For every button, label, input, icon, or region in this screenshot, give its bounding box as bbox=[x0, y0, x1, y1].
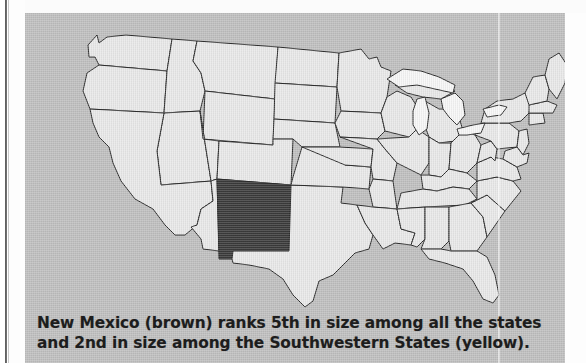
state-florida bbox=[421, 249, 499, 303]
state-vermont-new-hampshire bbox=[525, 75, 549, 105]
us-map bbox=[25, 13, 565, 313]
state-new-mexico-highlighted bbox=[217, 179, 291, 259]
state-wyoming bbox=[203, 91, 275, 145]
right-paper-margin bbox=[565, 0, 586, 363]
caption-line-1: New Mexico (brown) ranks 5th in size amo… bbox=[37, 313, 565, 333]
state-minnesota bbox=[337, 49, 391, 113]
state-alabama bbox=[421, 207, 449, 249]
figure-caption: New Mexico (brown) ranks 5th in size amo… bbox=[37, 313, 565, 353]
top-paper-margin bbox=[25, 0, 586, 13]
state-montana bbox=[193, 41, 278, 99]
scanned-page: New Mexico (brown) ranks 5th in size amo… bbox=[0, 0, 586, 363]
state-arkansas bbox=[369, 179, 397, 209]
page-gutter-rule bbox=[5, 0, 7, 363]
left-paper-margin bbox=[9, 0, 25, 363]
state-oregon bbox=[83, 65, 167, 113]
caption-line-2: and 2nd in size among the Southwestern S… bbox=[37, 333, 565, 353]
scan-seam bbox=[498, 13, 500, 363]
state-south-dakota bbox=[274, 83, 337, 123]
state-nevada bbox=[157, 111, 211, 185]
state-iowa bbox=[335, 111, 385, 139]
figure-panel: New Mexico (brown) ranks 5th in size amo… bbox=[25, 13, 565, 363]
state-colorado bbox=[217, 139, 293, 185]
lake-michigan bbox=[413, 97, 429, 135]
us-map-svg bbox=[25, 13, 565, 313]
state-north-dakota bbox=[275, 47, 339, 87]
state-connecticut-rhode-island bbox=[529, 113, 545, 125]
